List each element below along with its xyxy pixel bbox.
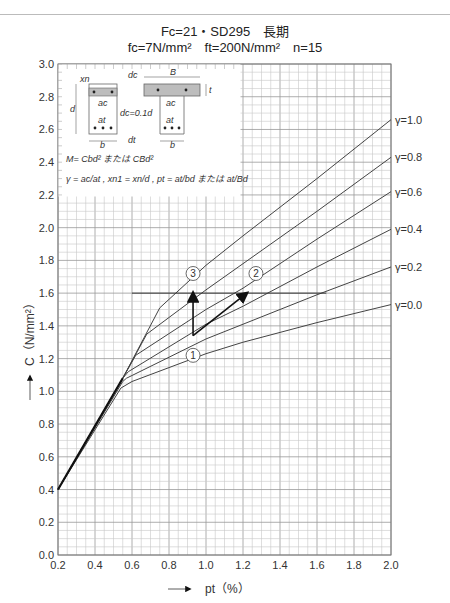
svg-text:M= Cbd² または CBd²: M= Cbd² または CBd² — [66, 154, 154, 164]
svg-text:1.0: 1.0 — [198, 559, 213, 571]
svg-text:at: at — [166, 115, 174, 125]
svg-text:b: b — [170, 140, 175, 150]
svg-text:at: at — [98, 115, 106, 125]
svg-text:1.4: 1.4 — [272, 559, 287, 571]
svg-text:2.8: 2.8 — [39, 91, 54, 103]
svg-text:2: 2 — [253, 268, 259, 279]
svg-text:0.6: 0.6 — [39, 451, 54, 463]
svg-text:b: b — [100, 140, 105, 150]
svg-text:0.4: 0.4 — [39, 484, 54, 496]
svg-text:dt: dt — [128, 135, 136, 145]
svg-text:dc=0.1d: dc=0.1d — [120, 108, 153, 118]
svg-text:0.8: 0.8 — [161, 559, 176, 571]
svg-text:C（N/mm²）: C（N/mm²） — [23, 297, 37, 366]
curve-label: γ=0.8 — [395, 151, 422, 163]
svg-text:xn: xn — [79, 74, 90, 84]
svg-text:ac: ac — [98, 98, 108, 108]
svg-text:3.0: 3.0 — [39, 58, 54, 70]
svg-text:0.6: 0.6 — [124, 559, 139, 571]
curve-label: γ=0.6 — [395, 186, 422, 198]
svg-text:1.2: 1.2 — [235, 559, 250, 571]
svg-text:0.2: 0.2 — [50, 559, 65, 571]
svg-text:pt（%）: pt（%） — [205, 582, 250, 596]
svg-text:2.0: 2.0 — [39, 222, 54, 234]
curve-label: γ=0.0 — [395, 299, 422, 311]
svg-text:1.8: 1.8 — [39, 254, 54, 266]
svg-text:dc: dc — [128, 70, 138, 80]
svg-text:0.8: 0.8 — [39, 418, 54, 430]
annotations: 123 — [132, 266, 326, 362]
svg-text:2.4: 2.4 — [39, 156, 54, 168]
svg-text:1.6: 1.6 — [309, 559, 324, 571]
curve-label: γ=0.4 — [395, 223, 422, 235]
svg-text:0.4: 0.4 — [87, 559, 102, 571]
svg-text:1.8: 1.8 — [346, 559, 361, 571]
svg-text:1.6: 1.6 — [39, 287, 54, 299]
chart: dacatbxndc=0.1ddcdtBacatbtM= Cbd² または CB… — [0, 0, 450, 603]
inset-diagram: dacatbxndc=0.1ddcdtBacatbtM= Cbd² または CB… — [58, 64, 249, 197]
svg-text:0.2: 0.2 — [39, 516, 54, 528]
svg-text:1.0: 1.0 — [39, 385, 54, 397]
svg-text:ac: ac — [166, 98, 176, 108]
svg-text:1.2: 1.2 — [39, 353, 54, 365]
svg-text:2.2: 2.2 — [39, 189, 54, 201]
svg-text:1.4: 1.4 — [39, 320, 54, 332]
svg-text:2.0: 2.0 — [383, 559, 398, 571]
svg-text:γ = ac/at , xn1 = xn/d , pt =: γ = ac/at , xn1 = xn/d , pt = at/bd または … — [66, 174, 249, 184]
svg-text:B: B — [170, 67, 176, 77]
curve-label: γ=1.0 — [395, 114, 422, 126]
svg-text:1: 1 — [190, 350, 196, 361]
svg-text:2.6: 2.6 — [39, 123, 54, 135]
svg-text:3: 3 — [190, 268, 196, 279]
curve-label: γ=0.2 — [395, 261, 422, 273]
